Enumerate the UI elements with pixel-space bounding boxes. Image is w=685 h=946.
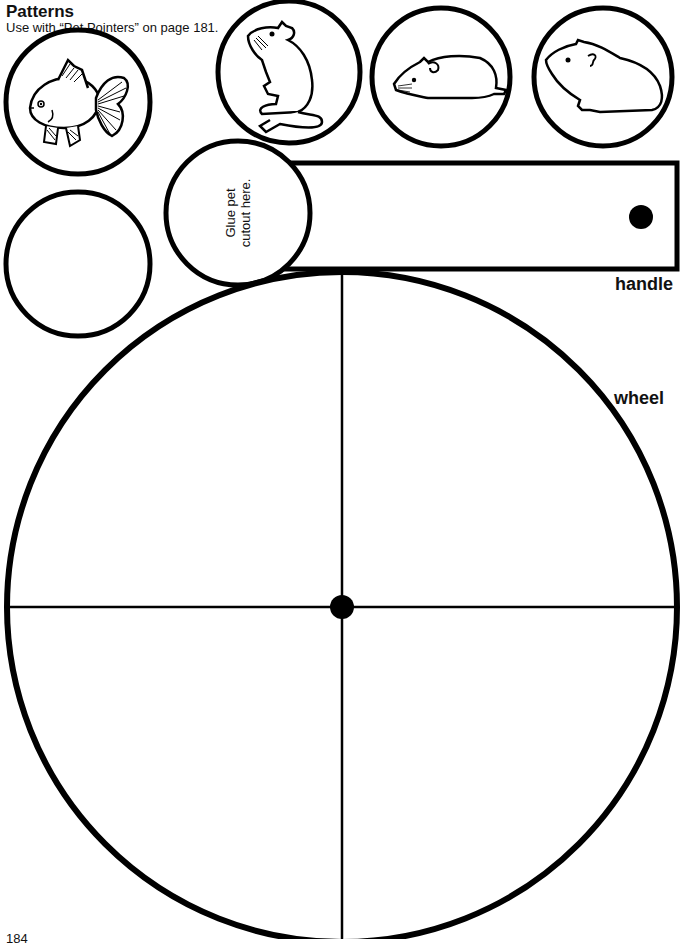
blank-circle-cutout [6, 192, 150, 336]
wheel-label: wheel [614, 388, 664, 409]
glue-instruction: Glue pet cutout here. [223, 179, 253, 248]
page-number: 184 [6, 932, 28, 946]
glue-text-line2: cutout here. [238, 179, 253, 248]
goldfish-icon [6, 30, 150, 174]
handle-label: handle [615, 274, 673, 295]
handle-hole-dot [629, 205, 653, 229]
guinea-pig-icon [534, 8, 672, 146]
gerbil-icon [218, 1, 360, 143]
hamster-icon [372, 8, 510, 146]
spinner-wheel [7, 272, 677, 939]
glue-text-line1: Glue pet [223, 179, 238, 248]
wheel-center-dot [330, 595, 354, 619]
